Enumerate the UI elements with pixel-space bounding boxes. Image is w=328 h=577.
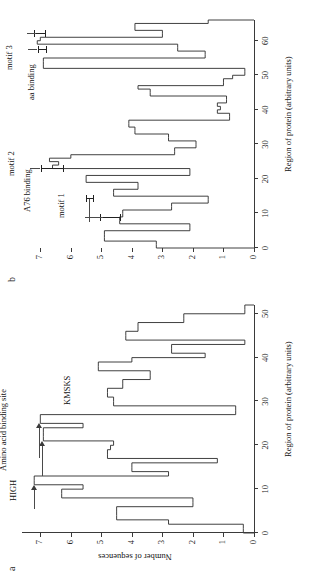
x-tick-label: 0 [260, 242, 270, 254]
panel-b-x-axis [254, 20, 255, 248]
marker-cap-top [86, 195, 87, 202]
marker-cap-bottom [93, 195, 94, 202]
y-tick [132, 533, 133, 537]
y-tick [71, 533, 72, 537]
y-tick [40, 248, 41, 252]
annotation-leader-line [42, 445, 43, 476]
panel-a-x-axis [254, 305, 255, 533]
x-tick-label: 20 [260, 439, 270, 451]
annotation-motif-3: motif 3 [4, 45, 14, 70]
marker-cap-bottom [45, 30, 46, 37]
marker-cap-bottom [120, 214, 121, 221]
y-tick [40, 533, 41, 537]
y-tick [254, 533, 255, 537]
arrow-head-icon [31, 485, 37, 490]
y-tick-label: 0 [248, 540, 258, 552]
y-tick-label: 1 [217, 255, 227, 267]
x-tick [254, 178, 258, 179]
y-tick-label: 0 [248, 255, 258, 267]
marker-stem [100, 217, 120, 218]
x-tick-label: 0 [260, 527, 270, 539]
y-tick-label: 2 [187, 255, 197, 267]
y-tick-label: 4 [126, 255, 136, 267]
y-tick-label: 3 [156, 255, 166, 267]
x-tick-label: 30 [260, 395, 270, 407]
annotation-leader-line [89, 199, 90, 222]
annotation-high: HIGH [8, 480, 18, 501]
x-tick [254, 401, 258, 402]
annotation-leader-line [39, 427, 40, 458]
y-tick-label: 5 [95, 255, 105, 267]
annotation-aa-binding: aa binding [26, 64, 36, 100]
y-tick [223, 533, 224, 537]
annotation-amino-acid-binding-site: Amino acid binding site [0, 389, 8, 471]
x-tick [254, 444, 258, 445]
x-tick [254, 488, 258, 489]
x-tick-label: 50 [260, 69, 270, 81]
marker-cap-top [41, 165, 42, 172]
y-tick-label: 6 [65, 540, 75, 552]
annotation-motif-1: motif 1 [56, 193, 66, 218]
x-tick [254, 313, 258, 314]
y-tick-label: 4 [126, 540, 136, 552]
annotation-a76-binding: A76 binding [22, 169, 32, 212]
panel-a-step-histogram [22, 305, 254, 533]
y-tick [193, 533, 194, 537]
marker-stem [38, 50, 46, 51]
marker-cap-bottom [46, 47, 47, 54]
panel-a-x-axis-label: Region of protein (arbitrary units) [283, 341, 293, 457]
x-tick [254, 213, 258, 214]
marker-stem [34, 33, 45, 34]
y-tick-label: 7 [34, 255, 44, 267]
x-tick-label: 20 [260, 173, 270, 185]
marker-cap-bottom [63, 165, 64, 172]
annotation-leader-line [34, 489, 35, 509]
annotation-motif-2: motif 2 [6, 151, 16, 176]
motif-1-leader [85, 218, 103, 219]
arrow-head-icon [36, 423, 42, 428]
aa-binding-leader [28, 50, 37, 51]
panel-a: a 01020304050 01234567 Number of sequenc… [0, 288, 328, 577]
marker-cap-top [38, 47, 39, 54]
x-tick [254, 74, 258, 75]
x-tick [254, 40, 258, 41]
y-tick-label: 1 [217, 540, 227, 552]
y-tick-label: 5 [95, 540, 105, 552]
motif-3-leader [27, 33, 36, 34]
marker-stem [41, 168, 63, 169]
arrow-head-icon [39, 441, 45, 446]
y-tick-label: 2 [187, 540, 197, 552]
y-tick [101, 533, 102, 537]
panel-b-letter: b [6, 277, 17, 282]
y-tick [193, 248, 194, 252]
panel-a-letter: a [6, 567, 17, 571]
x-tick-label: 60 [260, 35, 270, 47]
y-tick [101, 248, 102, 252]
y-tick-label: 6 [65, 255, 75, 267]
y-tick [223, 248, 224, 252]
x-tick [254, 143, 258, 144]
x-tick-label: 10 [260, 207, 270, 219]
rotated-page: a 01020304050 01234567 Number of sequenc… [0, 0, 328, 577]
figure-root: a 01020304050 01234567 Number of sequenc… [0, 0, 328, 577]
y-tick [71, 248, 72, 252]
x-tick [254, 109, 258, 110]
panel-b-x-axis-label: Region of protein (arbitrary units) [283, 56, 293, 172]
x-tick-label: 30 [260, 138, 270, 150]
x-tick-label: 40 [260, 104, 270, 116]
y-tick [254, 248, 255, 252]
panel-a-plot-area [22, 305, 254, 533]
annotation-kmsks: KMSKS [62, 376, 72, 405]
panel-a-y-axis-label: Number of sequences [75, 552, 195, 562]
panel-a-y-axis [22, 532, 254, 533]
motif-2-leader [30, 168, 41, 169]
x-tick [254, 357, 258, 358]
y-tick [162, 248, 163, 252]
x-tick-label: 50 [260, 308, 270, 320]
x-tick-label: 40 [260, 352, 270, 364]
y-tick-label: 7 [34, 540, 44, 552]
y-tick-label: 3 [156, 540, 166, 552]
y-tick [162, 533, 163, 537]
panel-b: b 0102030405060 01234567 Region of prote… [0, 0, 328, 288]
x-tick-label: 10 [260, 483, 270, 495]
